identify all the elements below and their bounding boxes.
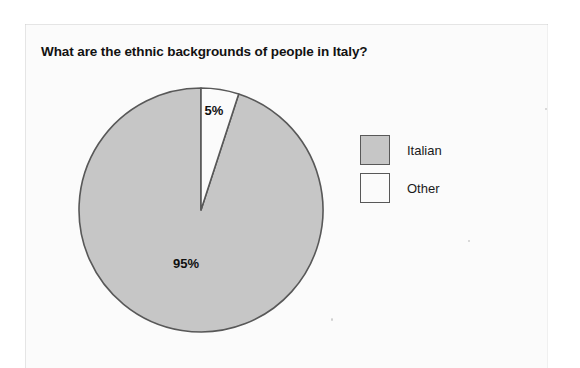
scan-speckle: [331, 318, 333, 321]
page-canvas: What are the ethnic backgrounds of peopl…: [0, 0, 580, 368]
scan-speckle: [468, 240, 470, 242]
legend-item-italian[interactable]: Italian: [360, 134, 510, 166]
pie-chart-svg: [78, 87, 324, 333]
scan-speckle: [545, 108, 547, 110]
legend-swatch-other: [360, 173, 390, 203]
page-edge-top: [25, 24, 548, 25]
chart-title: What are the ethnic backgrounds of peopl…: [41, 44, 367, 59]
chart-legend: Italian Other: [360, 134, 510, 210]
legend-item-other[interactable]: Other: [360, 172, 510, 204]
page-edge-right: [547, 24, 548, 368]
legend-label-italian: Italian: [407, 143, 442, 158]
pie-label-other: 5%: [205, 103, 224, 118]
pie-label-italian: 95%: [173, 256, 199, 271]
legend-label-other: Other: [407, 181, 440, 196]
legend-swatch-italian: [360, 135, 390, 165]
pie-chart: [78, 87, 324, 333]
page-edge-left: [25, 24, 26, 368]
